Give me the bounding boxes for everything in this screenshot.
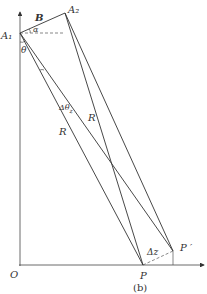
label-delta-theta: Δθz bbox=[59, 104, 73, 114]
label-R-left: R bbox=[59, 127, 67, 137]
geometry-diagram bbox=[0, 0, 207, 294]
alpha-arc bbox=[29, 29, 30, 33]
label-R-right: R bbox=[88, 113, 96, 123]
label-A2: A₂ bbox=[68, 5, 79, 15]
delta-theta-arc bbox=[40, 70, 44, 71]
label-P: P bbox=[140, 271, 147, 281]
ray-A2-Pprime bbox=[65, 13, 173, 251]
label-origin: O bbox=[10, 270, 18, 280]
label-A1: A₁ bbox=[1, 31, 12, 41]
ray-A1-Pprime bbox=[20, 33, 173, 251]
figure-caption: (b) bbox=[133, 283, 147, 293]
label-B: B bbox=[35, 13, 43, 23]
label-theta: θ bbox=[21, 46, 26, 55]
label-P-prime: P ′ bbox=[180, 243, 192, 253]
label-delta-z: Δz bbox=[147, 248, 158, 257]
label-alpha: α bbox=[33, 26, 38, 34]
